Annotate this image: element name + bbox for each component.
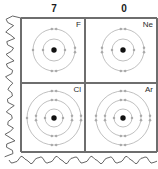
electron-dot (26, 117, 29, 120)
electron-dot (74, 47, 77, 50)
electron-dot (143, 51, 146, 54)
nucleus (51, 115, 56, 120)
bohr-model-f (32, 28, 77, 73)
element-symbol-ne: Ne (115, 20, 153, 29)
electron-dot (131, 117, 134, 120)
electron-dot (35, 115, 38, 118)
electron-dot (113, 117, 116, 120)
element-symbol-f: F (43, 20, 81, 29)
electron-dot (62, 117, 65, 120)
electron-dot (44, 117, 47, 120)
electron-dot (80, 119, 83, 122)
electron-dot (120, 135, 123, 138)
electron-dot (124, 144, 127, 147)
electron-dot (51, 99, 54, 102)
electron-dot (149, 119, 152, 122)
electron-dot (149, 115, 152, 118)
electron-dot (124, 70, 127, 73)
electron-dot (95, 115, 98, 118)
electron-dot (74, 51, 77, 54)
electron-dot (104, 115, 107, 118)
torn-edge-corner-top (13, 16, 21, 18)
electron-dot (101, 51, 104, 54)
electron-dot (55, 99, 58, 102)
electron-dot (55, 70, 58, 73)
electron-dot (42, 49, 45, 52)
electron-dot (71, 115, 74, 118)
bohr-model-ar (95, 90, 152, 147)
electron-dot (64, 49, 67, 52)
electron-dot (101, 47, 104, 50)
electron-dot (104, 119, 107, 122)
nucleus (120, 47, 125, 52)
electron-dot (95, 119, 98, 122)
element-symbol-ar: Ar (115, 85, 153, 94)
nucleus (51, 47, 56, 52)
electron-dot (124, 99, 127, 102)
electron-dot (35, 119, 38, 122)
nucleus (120, 115, 125, 120)
electron-dot (140, 115, 143, 118)
electron-dot (140, 119, 143, 122)
electron-dot (111, 49, 114, 52)
column-header-group-7: 7 (34, 3, 74, 14)
electron-dot (71, 119, 74, 122)
element-symbol-cl: Cl (43, 85, 81, 94)
periodic-table-fragment: 7 0 F Ne Cl Ar (0, 0, 158, 169)
electron-dot (55, 135, 58, 138)
torn-edge-left (5, 16, 15, 157)
bohr-model-cl (26, 90, 83, 147)
electron-dot (32, 49, 35, 52)
bohr-model-ne (101, 28, 146, 73)
electron-dot (133, 49, 136, 52)
electron-dot (143, 47, 146, 50)
electron-dot (51, 135, 54, 138)
electron-dot (120, 70, 123, 73)
electron-dot (120, 99, 123, 102)
column-header-group-0: 0 (104, 3, 144, 14)
electron-dot (55, 144, 58, 147)
torn-edge-bottom (9, 156, 157, 164)
electron-dot (51, 144, 54, 147)
electron-dot (51, 70, 54, 73)
electron-dot (124, 135, 127, 138)
electron-dot (80, 115, 83, 118)
electron-dot (120, 144, 123, 147)
